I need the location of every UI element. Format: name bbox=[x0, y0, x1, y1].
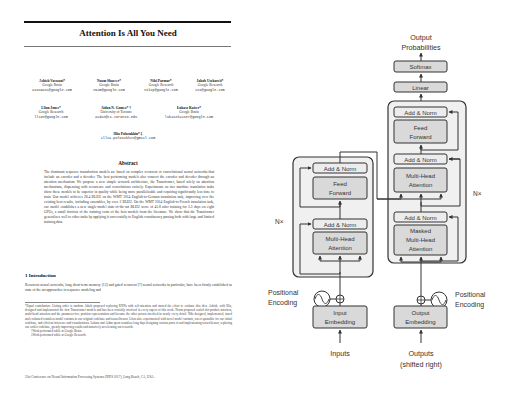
svg-text:Multi-Head: Multi-Head bbox=[406, 173, 435, 179]
encoder-positional-encoding-label: Encoding bbox=[268, 299, 297, 307]
decoder-nx-label: N× bbox=[473, 190, 482, 197]
input-embedding-box: Input Embedding bbox=[313, 306, 367, 328]
decoder-add-norm-middle: Add & Norm bbox=[394, 154, 447, 164]
svg-text:Feed: Feed bbox=[333, 181, 347, 187]
svg-text:Multi-Head: Multi-Head bbox=[406, 237, 435, 243]
svg-text:Multi-Head: Multi-Head bbox=[325, 236, 354, 242]
svg-text:Linear: Linear bbox=[412, 85, 429, 91]
svg-text:Masked: Masked bbox=[410, 228, 431, 234]
svg-text:Forward: Forward bbox=[409, 134, 431, 140]
encoder-positional-encoding-label: Positional bbox=[268, 289, 299, 296]
svg-text:Add & Norm: Add & Norm bbox=[404, 157, 437, 163]
svg-text:Embedding: Embedding bbox=[325, 319, 355, 325]
decoder-masked-multi-head-attention: Masked Multi-Head Attention bbox=[394, 225, 447, 255]
decoder-multi-head-attention: Multi-Head Attention bbox=[394, 168, 447, 192]
svg-text:Embedding: Embedding bbox=[405, 319, 435, 325]
encoder-feed-forward: Feed Forward bbox=[313, 177, 367, 199]
svg-text:Attention: Attention bbox=[409, 246, 433, 252]
outputs-shifted-label: (shifted right) bbox=[400, 360, 442, 369]
encoder-stack: Add & Norm Feed Forward Add & Norm Multi… bbox=[293, 157, 373, 277]
decoder-positional-encoding-label: Positional bbox=[455, 291, 486, 298]
decoder-add-norm-top: Add & Norm bbox=[394, 107, 447, 117]
svg-text:Add & Norm: Add & Norm bbox=[404, 110, 437, 116]
softmax-box: Softmax bbox=[394, 61, 447, 72]
svg-text:Add & Norm: Add & Norm bbox=[324, 166, 357, 172]
transformer-diagram: Output Probabilities Softmax Linear Add … bbox=[0, 0, 511, 393]
encoder-nx-label: N× bbox=[275, 218, 284, 225]
output-embedding-box: Output Embedding bbox=[394, 306, 447, 328]
encoder-multi-head-attention: Multi-Head Attention bbox=[313, 232, 367, 254]
svg-text:Forward: Forward bbox=[329, 190, 351, 196]
encoder-add-norm-bottom: Add & Norm bbox=[313, 219, 367, 229]
svg-text:Attention: Attention bbox=[328, 245, 352, 251]
outputs-label: Outputs bbox=[408, 349, 434, 358]
svg-text:Softmax: Softmax bbox=[409, 64, 431, 70]
decoder-stack: Add & Norm Feed Forward Add & Norm Multi… bbox=[388, 101, 466, 263]
svg-text:Input: Input bbox=[333, 310, 347, 316]
decoder-positional-encoding-label: Encoding bbox=[455, 301, 484, 309]
encoder-add-norm-top: Add & Norm bbox=[313, 163, 367, 173]
decoder-feed-forward: Feed Forward bbox=[394, 120, 447, 143]
linear-box: Linear bbox=[394, 82, 447, 92]
svg-text:Output: Output bbox=[411, 310, 429, 316]
decoder-add-norm-bottom: Add & Norm bbox=[394, 212, 447, 222]
svg-text:Add & Norm: Add & Norm bbox=[324, 222, 357, 228]
inputs-label: Inputs bbox=[330, 349, 350, 358]
svg-text:Attention: Attention bbox=[409, 182, 433, 188]
encoder-positional-add bbox=[336, 295, 344, 303]
output-probabilities-label: Probabilities bbox=[401, 43, 441, 52]
decoder-positional-add bbox=[417, 296, 425, 304]
output-probabilities-label: Output bbox=[410, 33, 432, 42]
svg-text:Feed: Feed bbox=[414, 125, 428, 131]
encoder-positional-encoding-icon bbox=[314, 291, 330, 307]
svg-text:Add & Norm: Add & Norm bbox=[404, 215, 437, 221]
